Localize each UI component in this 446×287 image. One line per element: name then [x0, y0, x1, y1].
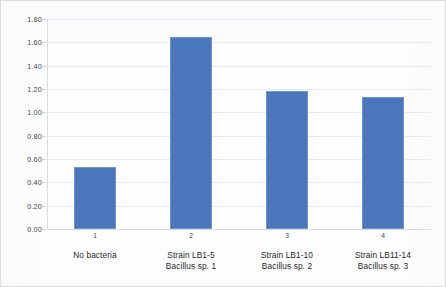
- caption-line-2: Bacillus sp. 1: [143, 261, 239, 272]
- x-axis-index-label: 2: [143, 232, 239, 239]
- y-axis-tick-mark: [42, 182, 46, 183]
- y-axis-tick-label: 0.60: [27, 155, 42, 164]
- y-axis-tick-mark: [42, 206, 46, 207]
- y-axis-tick-label: 1.80: [27, 15, 42, 24]
- y-axis-tick-mark: [42, 89, 46, 90]
- y-axis-tick-label: 0.00: [27, 225, 42, 234]
- caption-line-1: Strain LB11-14: [355, 250, 411, 260]
- caption-line-2: Bacillus sp. 3: [335, 261, 431, 272]
- y-axis-tick-label: 1.00: [27, 108, 42, 117]
- caption-line-1: No bacteria: [73, 250, 117, 260]
- x-axis-index-label: 4: [335, 232, 431, 239]
- y-axis-tick-mark: [42, 66, 46, 67]
- y-axis-tick-labels: 0.000.200.400.600.801.001.201.401.601.80: [1, 19, 42, 230]
- y-axis-tick-mark: [42, 112, 46, 113]
- y-axis-tick-label: 0.20: [27, 201, 42, 210]
- y-axis-tick-mark: [42, 19, 46, 20]
- y-axis-tick-label: 1.40: [27, 61, 42, 70]
- bar-series: [47, 19, 431, 229]
- chart-page: 0.000.200.400.600.801.001.201.401.601.80…: [0, 0, 446, 287]
- caption-line-1: Strain LB1-10: [261, 250, 313, 260]
- y-axis-tick-mark: [42, 229, 46, 230]
- y-axis-tick-label: 0.80: [27, 131, 42, 140]
- y-axis-tick-mark: [42, 159, 46, 160]
- caption-line-2: Bacillus sp. 2: [239, 261, 335, 272]
- y-axis-tick-mark: [42, 42, 46, 43]
- y-axis-tick-label: 1.20: [27, 85, 42, 94]
- gridline: [47, 229, 431, 230]
- x-axis-index-label: 3: [239, 232, 335, 239]
- y-axis-tick-label: 1.60: [27, 38, 42, 47]
- y-axis-tick-label: 0.40: [27, 178, 42, 187]
- y-axis-tick-mark: [42, 136, 46, 137]
- bar: [362, 97, 404, 229]
- x-axis-index-label: 1: [47, 232, 143, 239]
- x-axis-category-caption: Strain LB11-14Bacillus sp. 3: [335, 250, 431, 273]
- x-axis-index-labels: 1234: [47, 232, 431, 244]
- bar: [266, 91, 308, 229]
- caption-line-1: Strain LB1-5: [167, 250, 214, 260]
- x-axis-category-caption: No bacteria: [47, 250, 143, 261]
- x-axis-category-caption: Strain LB1-5Bacillus sp. 1: [143, 250, 239, 273]
- x-axis-category-captions: No bacteriaStrain LB1-5Bacillus sp. 1Str…: [31, 250, 443, 282]
- bar: [170, 37, 212, 230]
- bar: [74, 167, 116, 229]
- x-axis-category-caption: Strain LB1-10Bacillus sp. 2: [239, 250, 335, 273]
